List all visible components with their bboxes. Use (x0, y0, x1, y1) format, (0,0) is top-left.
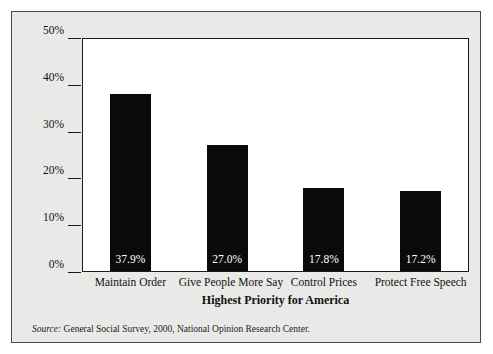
x-axis-category-label: Give People More Say (179, 276, 276, 288)
y-axis-tick (68, 178, 81, 179)
y-axis-tick (68, 132, 81, 133)
bar-value-label: 27.0% (207, 254, 248, 266)
x-axis-category-label: Control Prices (276, 276, 373, 288)
source-text: General Social Survey, 2000, National Op… (64, 324, 310, 334)
y-axis-tick (68, 225, 81, 226)
x-axis-title: Highest Priority for America (82, 293, 469, 308)
bar: 27.0% (207, 145, 248, 271)
bar: 17.2% (400, 191, 441, 271)
bar-value-label: 37.9% (110, 254, 151, 266)
x-axis-category-label: Maintain Order (82, 276, 179, 288)
x-axis-category-label: Protect Free Speech (372, 276, 469, 288)
bar: 37.9% (110, 94, 151, 271)
source-note: Source: General Social Survey, 2000, Nat… (32, 324, 310, 334)
bar-value-label: 17.8% (303, 254, 344, 266)
bar-value-label: 17.2% (400, 254, 441, 266)
y-axis-tick (68, 85, 81, 86)
y-axis-tick (68, 272, 81, 273)
plot-area: 37.9%27.0%17.8%17.2% (82, 38, 469, 272)
figure-panel: 0%10%20%30%40%50% 37.9%27.0%17.8%17.2% M… (11, 11, 481, 343)
bar: 17.8% (303, 188, 344, 271)
y-axis-tick (68, 38, 81, 39)
source-label: Source: (32, 324, 61, 334)
